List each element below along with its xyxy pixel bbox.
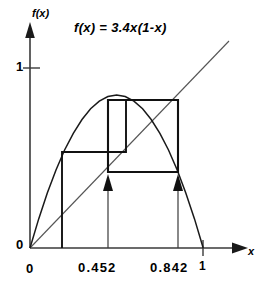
identity-diagonal-line <box>30 41 229 248</box>
origin-label: 0 <box>16 238 23 251</box>
x-tick-label-1: 1 <box>199 260 206 272</box>
logistic-map-cobweb-figure: f(x) = 3.4x(1-x) f(x) x 1 0 0 0.452 0.84… <box>0 0 270 288</box>
indicator-arrow-right <box>173 174 183 248</box>
x-axis-label: x <box>248 246 254 257</box>
period-2-cobweb-square <box>108 100 178 172</box>
y-axis-arrowhead-icon <box>25 22 35 38</box>
equation-title: f(x) = 3.4x(1-x) <box>74 21 167 34</box>
x-tick-label-0: 0 <box>26 262 33 275</box>
y-axis-label: f(x) <box>32 8 49 19</box>
y-tick-label-1: 1 <box>16 60 23 73</box>
x-axis-arrowhead-icon <box>232 243 248 254</box>
plot-canvas <box>0 0 270 288</box>
x-tick-label-0452: 0.452 <box>78 261 117 274</box>
indicator-arrow-left <box>103 174 113 248</box>
x-tick-label-0842: 0.842 <box>150 261 189 274</box>
inner-cobweb-path <box>62 100 126 248</box>
